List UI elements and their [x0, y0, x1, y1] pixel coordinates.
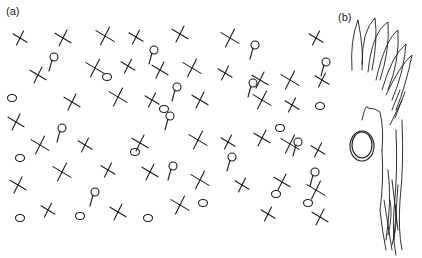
panel-b-sketch: [0, 0, 422, 258]
